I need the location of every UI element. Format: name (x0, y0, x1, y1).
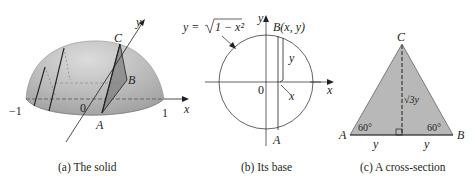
dome-solid (26, 41, 164, 115)
angle-left-label: 60° (358, 122, 372, 133)
height-label: √3y (404, 94, 419, 105)
panel-cross-section: x C A B 60° 60° √3y y y (c) A cross-sect… (310, 30, 465, 174)
point-b-label: B (128, 73, 136, 87)
point-a-label: A (95, 118, 104, 132)
caption-b: (b) Its base (241, 161, 292, 174)
panel-solid: y x −1 0 1 A B C (a) The solid (9, 15, 190, 174)
half-base-right-label: y (423, 137, 430, 151)
origin-label: 0 (258, 83, 264, 97)
angle-right-label: 60° (427, 122, 441, 133)
point-b-label: B(x, y) (273, 20, 305, 34)
neg-one-label: −1 (9, 104, 22, 118)
figure: y x −1 0 1 A B C (a) The solid y = 1 − x… (0, 0, 475, 182)
equation-lhs: y = (182, 20, 199, 34)
point-c-label: C (114, 31, 123, 45)
height-label: y (288, 51, 295, 65)
height-bracket (280, 38, 283, 82)
origin-label: 0 (80, 101, 86, 115)
point-c-label: C (397, 30, 406, 44)
caption-c: (c) A cross-section (360, 161, 446, 174)
y-axis-arrowhead (263, 15, 269, 22)
x-mark-label: x (288, 89, 295, 103)
y-axis-label: y (135, 15, 142, 29)
point-a-label: A (272, 133, 281, 147)
one-label: 1 (162, 106, 168, 120)
y-axis-label: y (257, 11, 264, 25)
panel-base: y = 1 − x² y B(x, y) y 0 x A (b) Its bas… (182, 11, 321, 174)
equation-radicand: 1 − x² (215, 20, 244, 34)
x-axis-label: x (183, 102, 190, 116)
caption-a: (a) The solid (58, 161, 117, 174)
point-a-label: A (338, 128, 347, 142)
point-b-label: B (457, 128, 465, 142)
x-axis-b-label: x (326, 83, 333, 97)
half-base-left-label: y (372, 137, 379, 151)
